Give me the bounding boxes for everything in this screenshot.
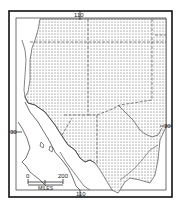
- map-figure: 110 110 30 30 0 200 MILES: [0, 0, 185, 210]
- parallel-label-left: 30: [10, 129, 17, 135]
- scale-start-label: 0: [26, 173, 29, 179]
- parallel-label-right: 30: [164, 123, 171, 129]
- meridian-label-bottom: 110: [76, 191, 86, 197]
- meridian-label-top: 110: [74, 12, 84, 18]
- scale-unit-label: MILES: [38, 186, 53, 191]
- scale-end-label: 200: [58, 173, 68, 179]
